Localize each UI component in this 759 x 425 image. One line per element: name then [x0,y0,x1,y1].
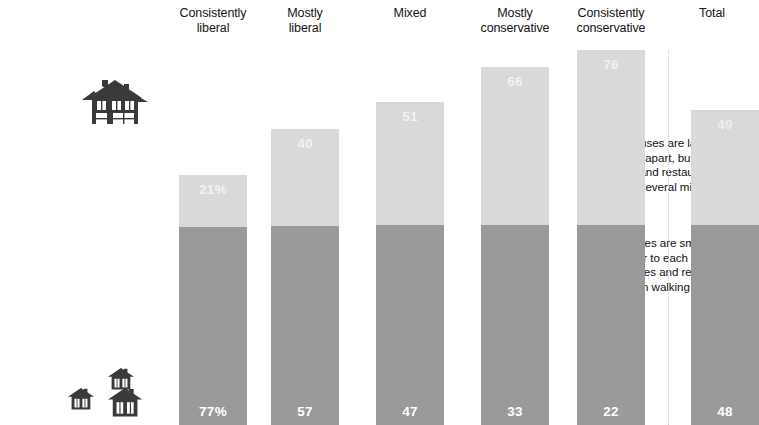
bar-value-label-top: 40 [271,136,339,151]
bar-segment-larger-houses[interactable]: 21% [179,175,247,227]
bar-value-label-bottom: 57 [271,404,339,419]
total-column-divider [668,50,670,425]
bar-segment-smaller-houses[interactable]: 33 [481,225,549,425]
bar-consistently-liberal[interactable]: 21% 77% [179,175,247,425]
bar-segment-larger-houses[interactable]: 66 [481,67,549,225]
bar-value-label-top: 66 [481,74,549,89]
column-header-line2: liberal [245,21,365,36]
bar-total[interactable]: 49 48 [691,110,759,425]
bar-segment-larger-houses[interactable]: 76 [577,50,645,225]
bar-value-label-top: 76 [577,57,645,72]
column-header-line1: Mostly [245,6,365,21]
house-large-icon [82,78,148,126]
house-small-icon [108,368,134,390]
house-small-icon [68,388,94,410]
bar-mostly-conservative[interactable]: 66 33 [481,67,549,425]
column-header-total: Total [667,6,757,21]
bar-value-label-bottom: 22 [577,404,645,419]
bar-segment-smaller-houses[interactable]: 22 [577,225,645,425]
bar-value-label-bottom: 77% [179,404,247,419]
bar-consistently-conservative[interactable]: 76 22 [577,50,645,425]
bar-value-label-top: 21% [179,182,247,197]
bar-segment-smaller-houses[interactable]: 57 [271,226,339,425]
bar-segment-larger-houses[interactable]: 40 [271,129,339,226]
bar-value-label-bottom: 33 [481,404,549,419]
column-header-consistently-conservative: Consistently conservative [543,6,679,35]
bar-value-label-top: 51 [376,109,444,124]
bar-segment-larger-houses[interactable]: 49 [691,110,759,225]
house-small-icon [108,388,142,417]
bar-value-label-top: 49 [691,117,759,132]
bar-value-label-bottom: 48 [691,404,759,419]
column-header-line1: Total [667,6,757,21]
bar-segment-larger-houses[interactable]: 51 [376,102,444,225]
bar-value-label-bottom: 47 [376,404,444,419]
column-header-mostly-liberal: Mostly liberal [245,6,365,35]
column-header-line2: conservative [543,21,679,36]
column-header-line1: Consistently [543,6,679,21]
bar-mixed[interactable]: 51 47 [376,102,444,425]
bar-mostly-liberal[interactable]: 40 57 [271,129,339,425]
bar-segment-smaller-houses[interactable]: 47 [376,225,444,425]
house-cluster-icon [64,368,156,418]
bar-segment-smaller-houses[interactable]: 77% [179,227,247,425]
bar-segment-smaller-houses[interactable]: 48 [691,225,759,425]
